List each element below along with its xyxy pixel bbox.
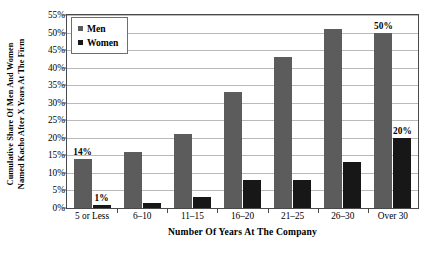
y-axis-title-line-1: Cumulative Share Of Men And Women <box>5 39 17 189</box>
y-axis-tick-mark <box>62 190 66 191</box>
legend-item-men[interactable]: Men <box>78 21 118 35</box>
legend-item-women[interactable]: Women <box>78 35 118 49</box>
x-axis-title: Number Of Years At The Company <box>66 226 419 237</box>
y-axis-tick-mark <box>62 120 66 121</box>
y-axis-tick-label: 45% <box>31 45 65 55</box>
y-axis-tick-mark <box>62 137 66 138</box>
bar-men <box>374 33 392 208</box>
x-axis-tick-label: 5 or Less <box>75 211 109 221</box>
bar-group <box>167 15 217 208</box>
y-axis-tick-mark <box>62 67 66 68</box>
legend-item-women-label: Women <box>87 37 118 48</box>
y-axis-tick-label: 0% <box>31 203 65 213</box>
chart-legend: Men Women <box>71 17 128 54</box>
bar-women <box>343 162 361 208</box>
y-axis-tick-label: 55% <box>31 10 65 20</box>
y-axis-tick-label: 25% <box>31 115 65 125</box>
y-axis-tick-label: 30% <box>31 98 65 108</box>
bar-women <box>143 203 161 208</box>
y-axis-tick-label: 35% <box>31 80 65 90</box>
x-axis-tick-mark <box>368 209 369 213</box>
x-axis-tick-mark <box>268 209 269 213</box>
bar-men <box>124 152 142 208</box>
x-axis-tick-labels: 5 or Less6–1011–1516–2021–2526–30Over 30 <box>66 210 419 226</box>
bar-men <box>324 29 342 208</box>
bar-women <box>93 205 111 209</box>
y-axis-tick-mark <box>62 15 66 16</box>
bar-women <box>243 180 261 208</box>
y-axis-tick-label: 5% <box>31 185 65 195</box>
y-axis-tick-label: 10% <box>31 168 65 178</box>
bar-group <box>217 15 267 208</box>
men-swatch-icon <box>78 26 83 31</box>
x-axis-tick-mark <box>318 209 319 213</box>
bar-men <box>74 159 92 208</box>
bar-data-label: 20% <box>393 126 412 136</box>
bar-group <box>318 15 368 208</box>
y-axis-tick-label: 15% <box>31 150 65 160</box>
bar-women <box>393 138 411 208</box>
bar-women <box>193 197 211 208</box>
bar-women <box>293 180 311 208</box>
x-axis-tick-label: 11–15 <box>181 211 204 221</box>
bar-group: 50%20% <box>368 15 418 208</box>
x-axis-tick-label: 21–25 <box>281 211 304 221</box>
bar-data-label: 50% <box>374 21 393 31</box>
y-axis-title: Cumulative Share Of Men And Women Named … <box>0 0 32 232</box>
women-swatch-icon <box>78 40 83 45</box>
bar-chart: Cumulative Share Of Men And Women Named … <box>0 0 433 265</box>
x-axis-tick-label: 26–30 <box>331 211 354 221</box>
y-axis-tick-mark <box>62 172 66 173</box>
y-axis-tick-mark <box>62 102 66 103</box>
y-axis-title-line-2: Named Kacho After X Years At The Firm <box>16 39 28 189</box>
y-axis-tick-label: 50% <box>31 28 65 38</box>
y-axis-tick-label: 20% <box>31 133 65 143</box>
x-axis-tick-mark <box>217 209 218 213</box>
x-axis-tick-mark <box>117 209 118 213</box>
bar-men <box>274 57 292 208</box>
bar-men <box>224 92 242 208</box>
x-axis-tick-label: Over 30 <box>378 211 408 221</box>
bar-data-label: 1% <box>95 193 109 203</box>
y-axis-tick-mark <box>62 155 66 156</box>
legend-item-men-label: Men <box>87 23 106 34</box>
bar-data-label: 14% <box>73 147 92 157</box>
y-axis-tick-mark <box>62 32 66 33</box>
y-axis-tick-mark <box>62 50 66 51</box>
bar-group <box>268 15 318 208</box>
y-axis-tick-mark <box>62 208 66 209</box>
x-axis-tick-label: 6–10 <box>133 211 152 221</box>
y-axis-tick-label: 40% <box>31 63 65 73</box>
bar-men <box>174 134 192 208</box>
x-axis-tick-mark <box>167 209 168 213</box>
y-axis-tick-mark <box>62 85 66 86</box>
x-axis-tick-label: 16–20 <box>231 211 254 221</box>
